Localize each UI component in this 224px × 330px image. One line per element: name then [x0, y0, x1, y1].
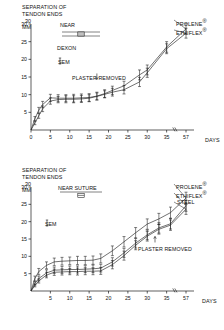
y-tick-label: 25	[21, 39, 27, 45]
x-tick-label: 15	[86, 295, 92, 301]
sem-marker-icon	[59, 58, 61, 64]
x-tick-label: 20	[106, 134, 112, 140]
tendon-separation-figure: SEPARATION OF TENDON ENDS 30 MM NEAR DEX…	[0, 0, 224, 330]
plot-area-near-dexon: 510152025300510152025303557	[0, 0, 224, 165]
x-tick-label: 10	[67, 295, 73, 301]
x-tick-label: 35	[164, 295, 170, 301]
series-line	[31, 206, 186, 291]
annotation-arrow-icon	[96, 73, 99, 79]
x-tick-label: 25	[125, 295, 131, 301]
x-tick-label: 30	[144, 295, 150, 301]
error-bars	[33, 24, 187, 121]
y-tick-label: 20	[21, 219, 27, 225]
x-tick-label: 20	[106, 295, 112, 301]
sem-marker-icon	[46, 220, 48, 226]
series-line	[31, 33, 186, 130]
x-tick-label: 35	[164, 134, 170, 140]
y-tick-label: 30	[21, 21, 27, 27]
error-bars	[33, 28, 187, 124]
y-tick-label: 20	[21, 56, 27, 62]
series-line	[31, 198, 186, 291]
chart-panel-near-dexon: SEPARATION OF TENDON ENDS 30 MM NEAR DEX…	[0, 0, 224, 165]
series-line	[31, 209, 186, 291]
y-tick-label: 25	[21, 201, 27, 207]
legend-symbol-icon	[62, 32, 100, 36]
x-tick-label: 5	[49, 295, 52, 301]
x-tick-label: 5	[49, 134, 52, 140]
error-bars	[33, 204, 187, 287]
x-tick-label: 10	[67, 134, 73, 140]
y-tick-label: 5	[24, 109, 27, 115]
annotation-arrow-icon	[154, 236, 157, 242]
error-bars	[33, 192, 187, 281]
series-leader-line	[174, 184, 186, 198]
x-tick-label: 15	[86, 134, 92, 140]
x-tick-label: 25	[125, 134, 131, 140]
series-leader-line	[174, 202, 186, 209]
legend-symbol-icon	[60, 192, 102, 198]
y-tick-label: 5	[24, 271, 27, 277]
x-tick-label: 30	[144, 134, 150, 140]
y-tick-label: 15	[21, 74, 27, 80]
series-leader-line	[174, 20, 186, 29]
y-tick-label: 30	[21, 184, 27, 190]
plot-area-near-suture: 51015202530510152025303557	[0, 165, 224, 330]
y-tick-label: 10	[21, 92, 27, 98]
x-tick-label: 0	[30, 134, 33, 140]
x-tick-label-final: 57	[183, 295, 189, 301]
y-tick-label: 10	[21, 253, 27, 259]
series-line	[31, 29, 186, 130]
y-tick-label: 15	[21, 236, 27, 242]
x-tick-label-final: 57	[183, 134, 189, 140]
chart-panel-near-suture: SEPARATION OF TENDON ENDS 30 MM NEAR SUT…	[0, 165, 224, 330]
